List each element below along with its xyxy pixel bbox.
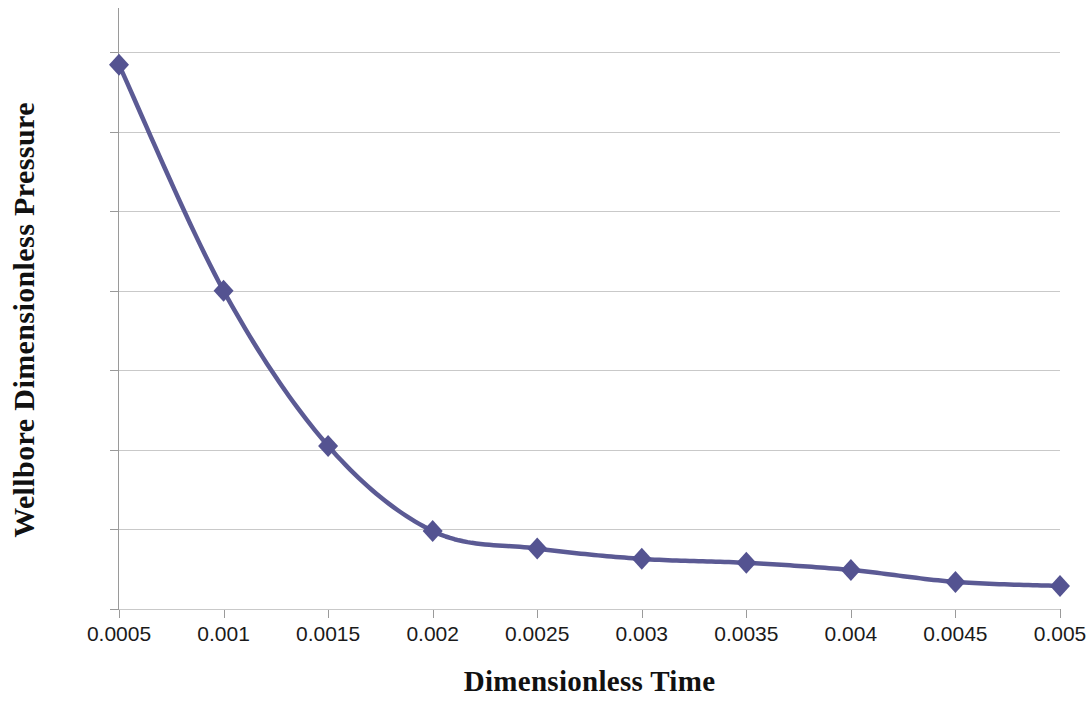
- x-tick-label: 0.004: [825, 622, 878, 646]
- x-tick-mark: [433, 609, 434, 618]
- x-tick-mark: [328, 609, 329, 618]
- x-tick-label: 0.0005: [87, 622, 151, 646]
- data-point-marker: [841, 559, 861, 581]
- y-tick-mark: [110, 529, 119, 530]
- y-tick-mark: [110, 52, 119, 53]
- plot-area: [119, 52, 1060, 609]
- x-tick-label: 0.0035: [714, 622, 778, 646]
- gridline: [119, 609, 1060, 610]
- x-tick-mark: [537, 609, 538, 618]
- x-tick-label: 0.0045: [923, 622, 987, 646]
- y-tick-mark: [110, 291, 119, 292]
- y-axis-title-label: Wellbore Dimensionless Pressure: [7, 102, 41, 538]
- data-point-marker: [945, 571, 965, 593]
- x-tick-mark: [119, 609, 120, 618]
- x-tick-label: 0.002: [406, 622, 459, 646]
- y-tick-mark: [110, 211, 119, 212]
- x-tick-mark: [746, 609, 747, 618]
- series-polyline: [119, 65, 1060, 586]
- series-markers: [109, 54, 1070, 597]
- x-tick-label: 0.005: [1034, 622, 1086, 646]
- x-tick-mark: [1060, 609, 1061, 618]
- y-tick-mark: [110, 450, 119, 451]
- x-tick-mark: [955, 609, 956, 618]
- data-point-marker: [632, 548, 652, 570]
- x-tick-mark: [224, 609, 225, 618]
- data-series-line: [119, 52, 1060, 609]
- x-axis-title: Dimensionless Time: [119, 665, 1060, 698]
- y-tick-mark: [110, 132, 119, 133]
- x-axis-title-label: Dimensionless Time: [464, 665, 716, 697]
- data-point-marker: [736, 552, 756, 574]
- x-tick-label: 0.003: [615, 622, 668, 646]
- data-point-marker: [527, 538, 547, 560]
- data-point-marker: [423, 520, 443, 542]
- y-tick-mark: [110, 370, 119, 371]
- y-axis-title: Wellbore Dimensionless Pressure: [0, 0, 48, 640]
- x-tick-label: 0.0015: [296, 622, 360, 646]
- data-point-marker: [1050, 575, 1070, 597]
- x-tick-label: 0.0025: [505, 622, 569, 646]
- x-tick-mark: [642, 609, 643, 618]
- data-point-marker: [214, 280, 234, 302]
- data-point-marker: [109, 54, 129, 76]
- y-tick-mark: [110, 609, 119, 610]
- x-tick-mark: [851, 609, 852, 618]
- x-tick-label: 0.001: [197, 622, 250, 646]
